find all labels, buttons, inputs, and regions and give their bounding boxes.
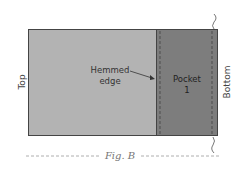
hemmed-label: Hemmed [91, 65, 130, 75]
bottom-label: Bottom [222, 65, 232, 98]
top-label: Top [17, 74, 27, 90]
figure-caption: Fig. B [104, 150, 135, 161]
fold-mark-top [213, 14, 217, 29]
pocket-label: Pocket [173, 74, 202, 84]
pocket-number-label: 1 [184, 85, 189, 95]
pocket-diagram: Top Bottom Hemmed edge Pocket 1 Fig. B [0, 0, 242, 173]
fold-mark-bottom [212, 137, 215, 153]
edge-label: edge [99, 76, 120, 86]
